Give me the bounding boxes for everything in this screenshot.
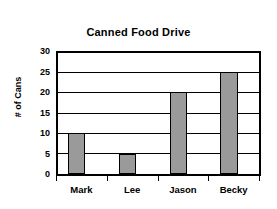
x-tick-mark — [107, 176, 108, 181]
x-tick-label-becky: Becky — [208, 184, 259, 195]
y-axis-tick-labels: 30 25 20 15 10 5 0 — [26, 51, 50, 174]
bar-lee — [119, 154, 136, 175]
bar-chart-figure: Canned Food Drive # of Cans 30 25 20 15 … — [0, 0, 277, 209]
bar-slot — [210, 51, 261, 174]
bar-slot — [160, 51, 211, 174]
bar-mark — [68, 133, 85, 174]
bar-jason — [170, 92, 187, 174]
bar-becky — [220, 72, 237, 175]
y-tick-label: 15 — [26, 109, 50, 118]
bar-slot — [109, 51, 160, 174]
plot-area — [56, 51, 261, 176]
y-tick-label: 20 — [26, 88, 50, 97]
bar-slot — [58, 51, 109, 174]
y-tick-label: 25 — [26, 68, 50, 77]
y-tick-label: 30 — [26, 47, 50, 56]
x-tick-mark — [158, 176, 159, 181]
plot-inner — [58, 51, 261, 174]
x-tick-label-mark: Mark — [56, 184, 107, 195]
chart-title: Canned Food Drive — [0, 26, 277, 39]
y-tick-label: 0 — [26, 170, 50, 179]
x-axis-tick-labels: Mark Lee Jason Becky — [56, 184, 259, 200]
y-tick-label: 5 — [26, 150, 50, 159]
x-tick-label-jason: Jason — [158, 184, 209, 195]
x-tick-mark — [208, 176, 209, 181]
x-tick-mark — [56, 176, 57, 181]
y-axis-title: # of Cans — [13, 67, 23, 127]
x-tick-mark — [259, 176, 260, 181]
x-tick-label-lee: Lee — [107, 184, 158, 195]
y-tick-label: 10 — [26, 129, 50, 138]
